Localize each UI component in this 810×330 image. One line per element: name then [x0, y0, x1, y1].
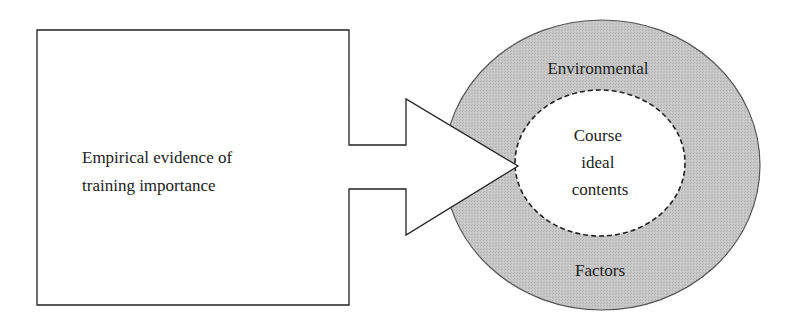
- course-label-line2: ideal: [581, 153, 614, 172]
- environmental-label: Environmental: [547, 59, 648, 78]
- evidence-label-line2: training importance: [82, 176, 216, 195]
- diagram-canvas: Empirical evidence of training importanc…: [0, 0, 810, 330]
- evidence-box-arrow: [37, 30, 518, 305]
- course-label-line3: contents: [572, 180, 629, 199]
- factors-label: Factors: [575, 261, 625, 280]
- course-label-line1: Course: [574, 126, 622, 145]
- evidence-label-line1: Empirical evidence of: [82, 148, 232, 167]
